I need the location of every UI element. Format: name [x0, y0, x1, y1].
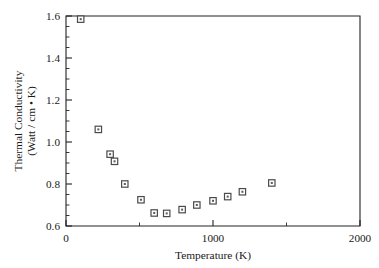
y-tick-label: 1.4 — [46, 52, 60, 64]
x-tick-label: 2000 — [349, 232, 372, 244]
data-point — [225, 193, 231, 199]
data-point — [163, 210, 169, 216]
data-point-markers — [78, 16, 276, 217]
data-point — [111, 158, 117, 164]
data-point — [107, 151, 113, 157]
data-point — [95, 126, 101, 132]
data-point — [239, 189, 245, 195]
y-axis-title-line2: (Watt / cm • K) — [25, 86, 38, 156]
x-tick-label: 1000 — [202, 232, 225, 244]
y-axis-tick-labels: 0.60.81.01.21.41.6 — [46, 10, 60, 232]
y-tick-label: 0.6 — [46, 220, 60, 232]
x-tick-label: 0 — [63, 232, 69, 244]
x-axis-title: Temperature (K) — [175, 249, 251, 262]
y-tick-label: 1.0 — [46, 136, 60, 148]
data-point — [269, 180, 275, 186]
data-point — [210, 198, 216, 204]
y-tick-label: 0.8 — [46, 178, 60, 190]
data-point — [194, 202, 200, 208]
data-point — [138, 197, 144, 203]
chart-figure: 010002000 0.60.81.01.21.41.6 Temperature… — [0, 0, 379, 268]
axis-frame-path — [66, 16, 360, 226]
data-point — [78, 16, 84, 22]
data-point — [151, 210, 157, 216]
x-axis-major-ticks — [66, 220, 360, 226]
scatter-plot: 010002000 0.60.81.01.21.41.6 Temperature… — [0, 0, 379, 268]
data-point — [122, 181, 128, 187]
x-axis-tick-labels: 010002000 — [63, 232, 371, 244]
y-axis-title-line1: Thermal Conductivity — [12, 70, 24, 171]
data-point — [179, 206, 185, 212]
y-tick-label: 1.2 — [46, 94, 60, 106]
y-tick-label: 1.6 — [46, 10, 60, 22]
plot-frame — [66, 16, 360, 226]
